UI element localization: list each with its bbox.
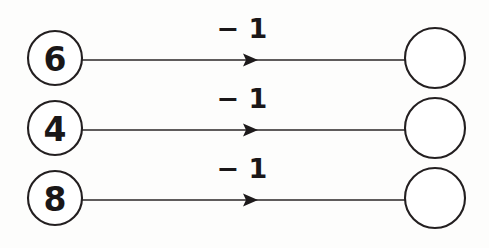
diagram-row: 6 − 1 <box>28 13 465 88</box>
input-node-value: 8 <box>44 180 67 219</box>
function-machine-diagram: 6 − 1 4 − 1 8 − 1 <box>0 0 489 248</box>
operation-label: − 1 <box>217 83 268 114</box>
input-node-value: 6 <box>44 40 67 79</box>
operation-label: − 1 <box>217 153 268 184</box>
output-node-circle[interactable] <box>405 28 465 88</box>
diagram-row: 8 − 1 <box>28 153 465 228</box>
output-node-circle[interactable] <box>405 168 465 228</box>
worksheet-canvas: 6 − 1 4 − 1 8 − 1 <box>0 0 489 248</box>
output-node-circle[interactable] <box>405 98 465 158</box>
input-node-value: 4 <box>44 110 67 149</box>
operation-label: − 1 <box>217 13 268 44</box>
diagram-row: 4 − 1 <box>28 83 465 158</box>
